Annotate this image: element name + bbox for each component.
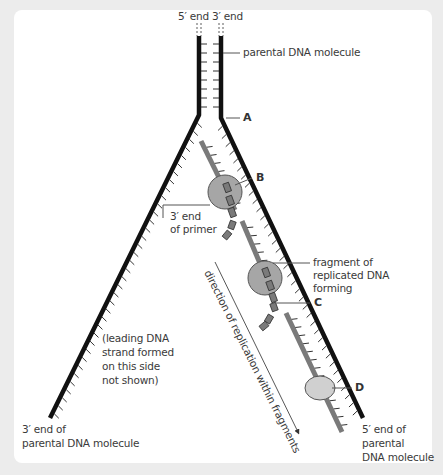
top-dashed-ends	[197, 23, 223, 36]
label-bottom-right-3: DNA molecule	[362, 451, 434, 464]
label-leading-2: strand formed	[102, 346, 174, 359]
label-leading-4: not shown)	[102, 374, 158, 387]
label-3prime-top: 3′ end	[212, 10, 243, 23]
label-fragment-2: replicated DNA	[313, 269, 389, 282]
label-primer-2: of primer	[170, 223, 217, 236]
label-C: C	[314, 296, 322, 309]
label-primer-1: 3′ end	[170, 210, 201, 223]
label-fragment-3: forming	[313, 282, 352, 295]
label-fragment-1: fragment of	[313, 256, 373, 269]
label-leading-1: (leading DNA	[102, 332, 169, 345]
label-5prime-top: 5′ end	[178, 10, 209, 23]
enzyme-B	[208, 175, 242, 209]
label-bottom-left-1: 3′ end of	[22, 423, 66, 436]
enzyme-D	[305, 376, 335, 400]
label-parental-dna: parental DNA molecule	[243, 46, 360, 59]
label-leading-3: on this side	[102, 360, 160, 373]
label-D: D	[355, 381, 364, 394]
dna-replication-diagram	[0, 0, 443, 475]
label-bottom-right-1: 5′ end of	[362, 423, 406, 436]
label-bottom-right-2: parental	[362, 437, 404, 450]
label-B: B	[256, 171, 264, 184]
label-A: A	[243, 111, 251, 124]
label-bottom-left-2: parental DNA molecule	[22, 437, 139, 450]
